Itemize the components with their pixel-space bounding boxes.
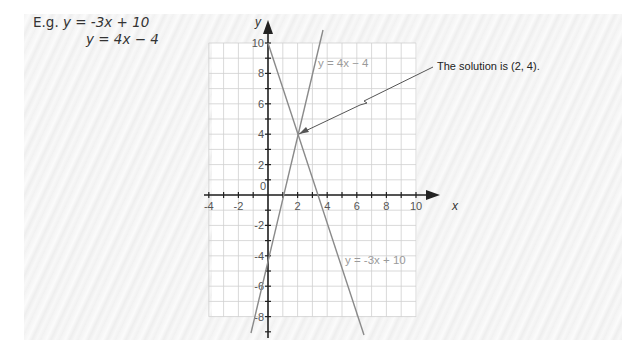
y-axis-label: y — [254, 15, 262, 29]
y-tick-label: 8 — [258, 67, 264, 79]
y-tick-label: 6 — [258, 98, 264, 110]
x-axis-label: x — [451, 199, 459, 213]
x-tick-label: -2 — [234, 200, 244, 212]
x-tick-label: 10 — [410, 200, 422, 212]
x-tick-label: 0 — [260, 180, 266, 192]
coordinate-graph: -4-20246810-8-6-4-2246810 x y y = 4x − 4… — [0, 0, 644, 356]
x-axis-arrow-icon — [426, 190, 440, 200]
y-axis-arrow-icon — [263, 20, 273, 34]
y-tick-label: 10 — [252, 37, 264, 49]
line1-label: y = 4x − 4 — [318, 57, 369, 69]
x-tick-label: -4 — [204, 200, 214, 212]
line2-label: y = -3x + 10 — [345, 254, 406, 266]
x-tick-label: 6 — [354, 200, 360, 212]
y-tick-label: 2 — [258, 159, 264, 171]
y-tick-label: 4 — [258, 128, 264, 140]
solution-annotation: The solution is (2, 4). — [437, 60, 540, 72]
x-tick-label: 4 — [324, 200, 330, 212]
x-tick-label: 8 — [383, 200, 389, 212]
y-tick-label: -4 — [254, 250, 264, 262]
y-tick-label: -2 — [254, 219, 264, 231]
x-tick-label: 2 — [295, 200, 301, 212]
